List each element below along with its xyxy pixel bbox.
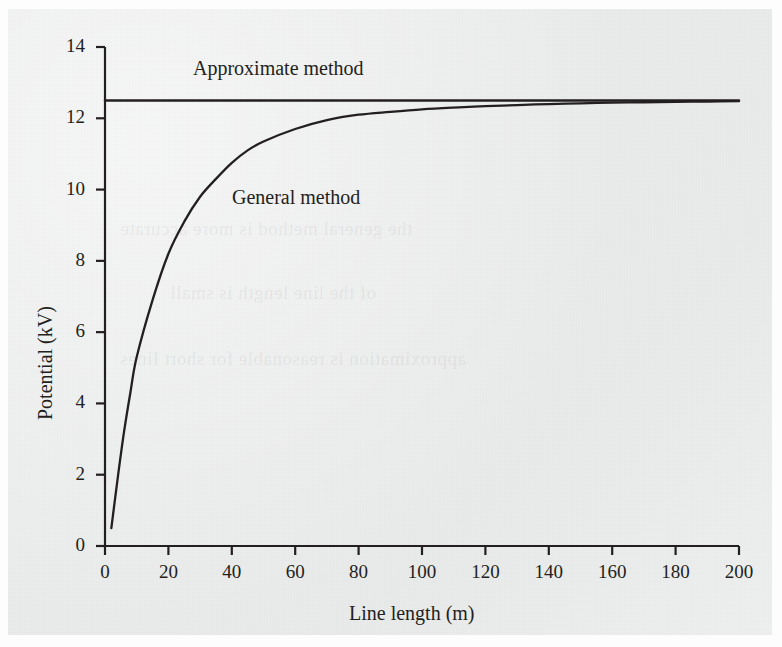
figure-canvas: the general method is more accurate of t… [0, 0, 782, 647]
y-tick-label: 2 [76, 463, 86, 485]
x-tick-label: 200 [725, 561, 754, 583]
y-tick-label: 6 [76, 320, 86, 342]
x-axis-title: Line length (m) [349, 602, 475, 625]
y-tick-label: 4 [76, 391, 86, 413]
y-tick-label: 10 [66, 178, 85, 200]
x-tick-label: 60 [286, 561, 305, 583]
annotation-approximate-method: Approximate method [193, 57, 364, 80]
x-tick-label: 40 [222, 561, 241, 583]
y-tick-label: 12 [66, 106, 85, 128]
y-tick-label: 0 [76, 534, 86, 556]
chart-plot-area [0, 0, 782, 647]
x-tick-label: 100 [408, 561, 437, 583]
x-tick-label: 160 [598, 561, 627, 583]
y-axis-ticks [96, 47, 105, 546]
y-tick-label: 14 [66, 35, 85, 57]
x-tick-label: 140 [535, 561, 564, 583]
series-line-general-method [111, 101, 739, 528]
x-axis-ticks [105, 546, 739, 555]
x-tick-label: 180 [661, 561, 690, 583]
x-tick-label: 20 [159, 561, 178, 583]
annotation-general-method: General method [232, 186, 360, 209]
x-tick-label: 120 [471, 561, 500, 583]
x-tick-label: 80 [349, 561, 368, 583]
y-axis-title: Potential (kV) [34, 306, 57, 420]
x-tick-label: 0 [100, 561, 110, 583]
y-tick-label: 8 [76, 249, 86, 271]
